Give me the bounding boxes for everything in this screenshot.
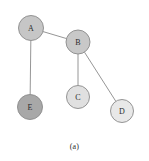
node-layer: ABCDE [18,16,134,123]
figure-panel: ABCDE (a) [0,0,149,161]
graph-node-d[interactable]: D [111,100,134,123]
graph-edge-a-e [30,40,31,94]
graph-diagram: ABCDE [0,0,149,161]
graph-edge-a-b [43,32,67,39]
graph-node-e[interactable]: E [18,95,43,120]
node-circle-c[interactable] [67,86,90,109]
node-circle-b[interactable] [66,30,90,54]
node-circle-e[interactable] [18,95,43,120]
graph-node-c[interactable]: C [67,86,90,109]
graph-node-b[interactable]: B [66,30,90,54]
graph-node-a[interactable]: A [19,16,44,41]
node-circle-d[interactable] [111,100,134,123]
figure-caption: (a) [0,142,149,151]
node-circle-a[interactable] [19,16,44,41]
